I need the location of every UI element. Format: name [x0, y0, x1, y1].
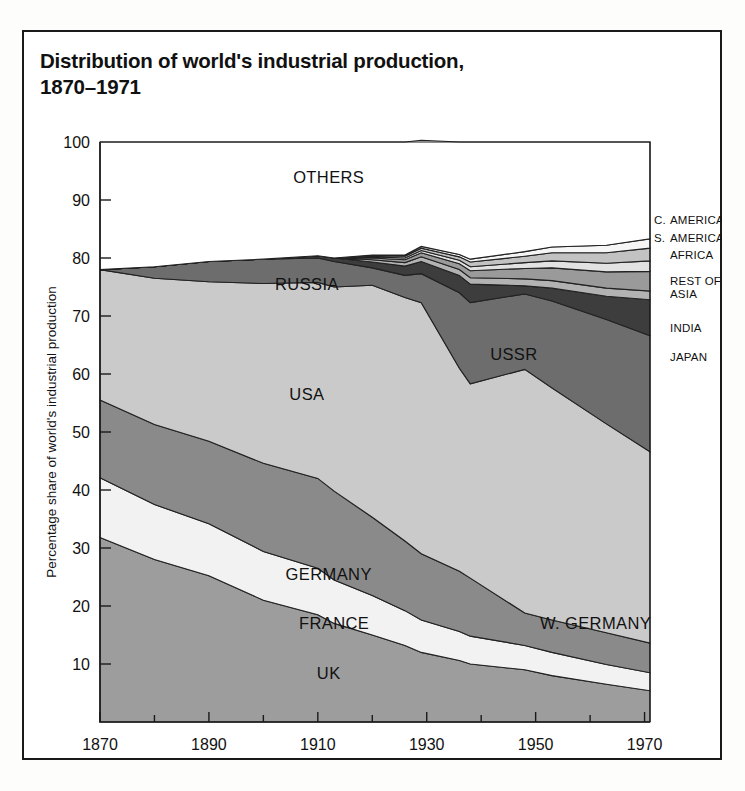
y-tick-label: 90	[72, 192, 90, 209]
side-label-c-america: AMERICA	[670, 214, 722, 226]
side-label-africa: AFRICA	[670, 249, 714, 261]
side-labels-group: C.AMERICAS.AMERICAAFRICAREST OFASIAINDIA…	[654, 214, 722, 362]
figure-canvas: Distribution of world's industrial produ…	[0, 0, 745, 791]
side-label-rest-of-asia-line1: REST OF	[670, 275, 721, 287]
y-tick-label: 80	[72, 250, 90, 267]
band-label-germany: GERMANY	[286, 565, 372, 583]
band-label-uk: UK	[317, 664, 341, 682]
stacked-area-chart: 1020304050607080901001870189019101930195…	[22, 30, 722, 760]
x-tick-label: 1950	[518, 736, 554, 753]
y-tick-label: 70	[72, 308, 90, 325]
side-label-india: INDIA	[670, 322, 702, 334]
band-label-ussr: USSR	[490, 345, 537, 363]
y-tick-label: 20	[72, 598, 90, 615]
y-tick-label: 50	[72, 424, 90, 441]
y-tick-label: 40	[72, 482, 90, 499]
side-label-prefix: C.	[654, 214, 666, 226]
y-axis-title: Percentage share of world's industrial p…	[44, 286, 59, 578]
x-tick-label: 1890	[191, 736, 227, 753]
x-tick-label: 1970	[627, 736, 663, 753]
side-label-s-america: AMERICA	[670, 232, 722, 244]
band-label-others: OTHERS	[293, 168, 364, 186]
y-tick-label: 60	[72, 366, 90, 383]
side-label-rest-of-asia-line2: ASIA	[670, 288, 697, 300]
area-bands-group	[100, 140, 650, 722]
y-tick-label: 100	[63, 134, 90, 151]
y-tick-label: 10	[72, 656, 90, 673]
band-label-usa: USA	[289, 385, 324, 403]
x-tick-label: 1910	[300, 736, 336, 753]
band-label-france: FRANCE	[299, 614, 369, 632]
x-tick-label: 1870	[82, 736, 118, 753]
x-tick-label: 1930	[409, 736, 445, 753]
band-label-russia: RUSSIA	[275, 275, 339, 293]
chart-area: 1020304050607080901001870189019101930195…	[22, 30, 722, 760]
band-label-w-germany: W. GERMANY	[540, 614, 651, 632]
y-tick-label: 30	[72, 540, 90, 557]
side-label-japan: JAPAN	[670, 351, 707, 363]
side-label-prefix: S.	[654, 232, 665, 244]
